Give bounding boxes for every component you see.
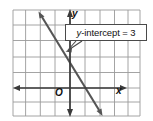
y-intercept-callout: y-intercept = 3 <box>65 24 147 41</box>
graph-figure: y-intercept = 3 y x O <box>0 0 153 121</box>
origin-label: O <box>55 87 63 98</box>
x-axis-arrow-left <box>13 85 20 91</box>
x-axis-label: x <box>116 85 122 96</box>
y-axis-label: y <box>72 8 78 19</box>
line-arrowhead-down <box>97 109 103 117</box>
callout-leader <box>66 41 83 53</box>
callout-text-rest: -intercept = 3 <box>81 27 135 38</box>
line-arrowhead-up <box>39 12 45 19</box>
callout-arrowhead <box>66 48 73 53</box>
